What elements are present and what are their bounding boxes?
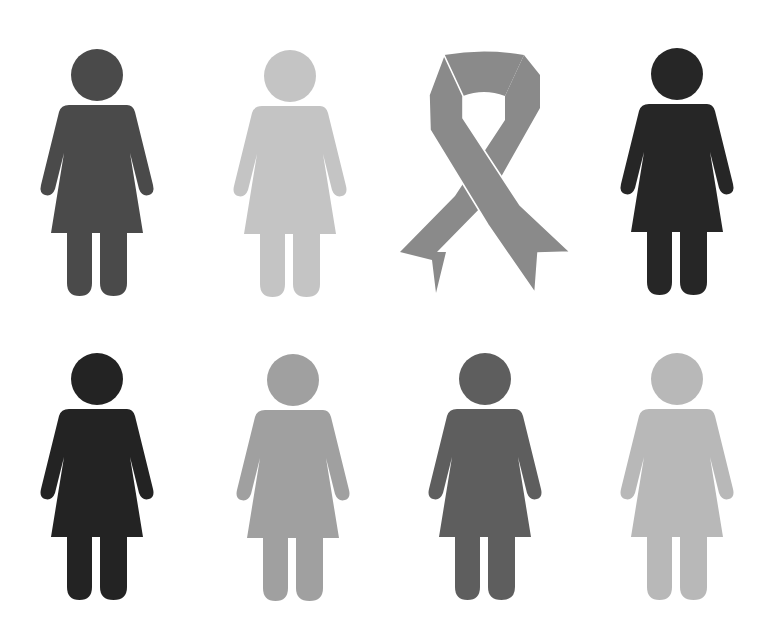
- woman-figure-6: [429, 353, 542, 600]
- woman-figure-1: [41, 49, 154, 296]
- woman-figure-4: [41, 353, 154, 600]
- woman-figure-7: [621, 353, 734, 600]
- woman-figure-3: [621, 48, 734, 295]
- figures-svg: [0, 0, 771, 640]
- woman-figure-2: [234, 50, 347, 297]
- illustration-canvas: Women figures with awareness ribbon: [0, 0, 771, 640]
- woman-figure-5: [237, 354, 350, 601]
- awareness-ribbon-icon: [400, 52, 570, 294]
